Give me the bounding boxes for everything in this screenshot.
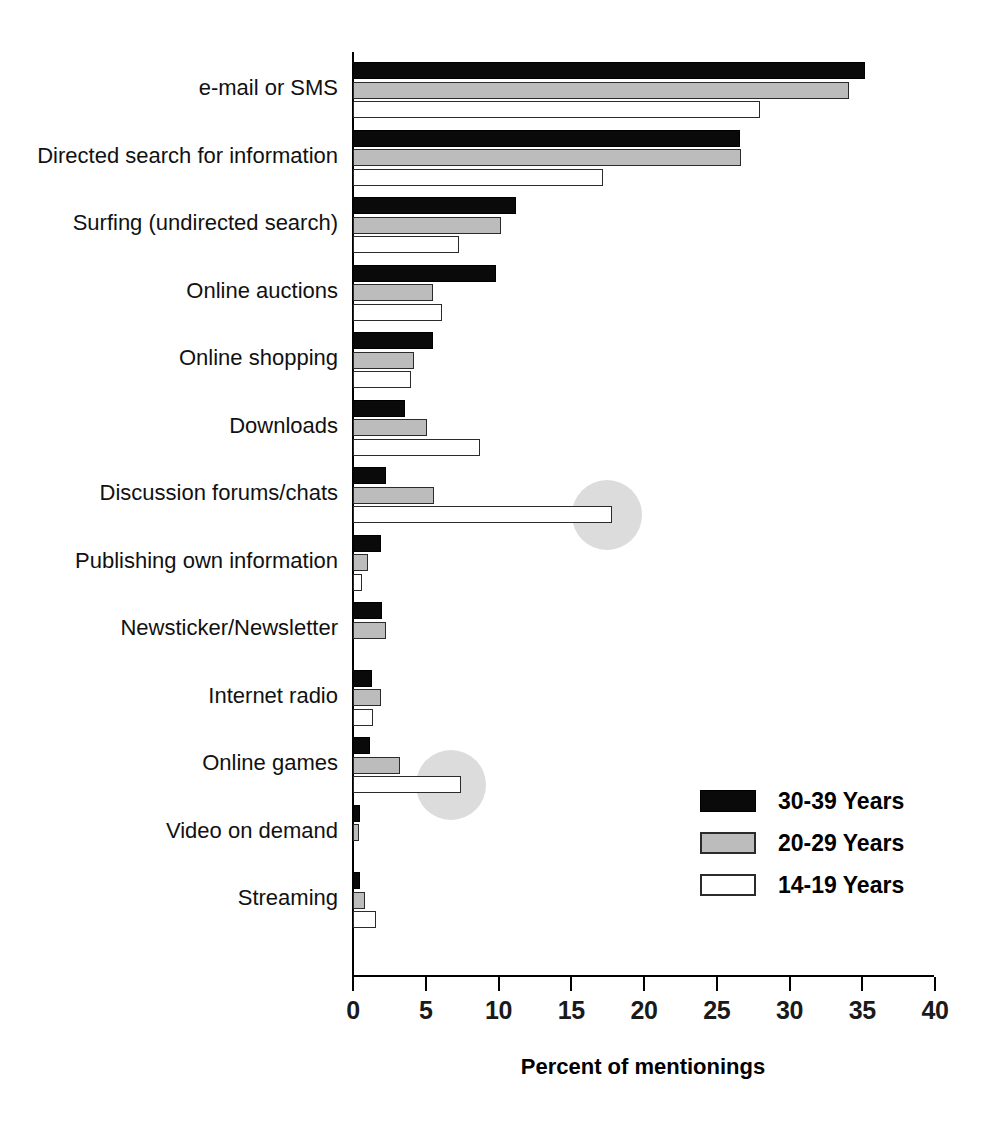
category-label-surfing-undirected-search: Surfing (undirected search)	[0, 210, 338, 236]
bar-surfing-undirected-search-14-19-years	[353, 236, 459, 253]
x-tick-40	[934, 977, 936, 991]
legend-item-20-29: 20-29 Years	[700, 822, 904, 864]
category-label-online-games: Online games	[0, 750, 338, 776]
category-label-online-shopping: Online shopping	[0, 345, 338, 371]
bar-online-shopping-14-19-years	[353, 371, 411, 388]
x-tick-label-20: 20	[622, 996, 666, 1025]
x-tick-label-10: 10	[477, 996, 521, 1025]
x-tick-30	[789, 977, 791, 991]
x-tick-0	[352, 977, 354, 991]
x-tick-25	[716, 977, 718, 991]
x-tick-5	[425, 977, 427, 991]
bar-online-games-30-39-years	[353, 737, 370, 754]
bar-newsticker-newsletter-30-39-years	[353, 602, 382, 619]
bar-discussion-forums-chats-14-19-years	[353, 506, 612, 523]
category-label-internet-radio: Internet radio	[0, 683, 338, 709]
category-label-streaming: Streaming	[0, 885, 338, 911]
x-tick-10	[498, 977, 500, 991]
bar-streaming-20-29-years	[353, 892, 365, 909]
category-label-publishing-own-information: Publishing own information	[0, 548, 338, 574]
x-tick-20	[643, 977, 645, 991]
legend-swatch-black-filled-swatch	[700, 790, 756, 812]
bar-streaming-30-39-years	[353, 872, 360, 889]
x-tick-15	[570, 977, 572, 991]
bar-surfing-undirected-search-20-29-years	[353, 217, 501, 234]
legend-swatch-white-outlined-swatch	[700, 874, 756, 896]
bar-online-auctions-30-39-years	[353, 265, 496, 282]
category-label-newsticker-newsletter: Newsticker/Newsletter	[0, 615, 338, 641]
category-label-directed-search-for-information: Directed search for information	[0, 143, 338, 169]
bar-online-shopping-30-39-years	[353, 332, 433, 349]
category-label-e-mail-or-sms: e-mail or SMS	[0, 75, 338, 101]
category-label-discussion-forums-chats: Discussion forums/chats	[0, 480, 338, 506]
bar-downloads-20-29-years	[353, 419, 427, 436]
chart-legend: 30-39 Years 20-29 Years 14-19 Years	[700, 780, 904, 906]
bar-internet-radio-14-19-years	[353, 709, 373, 726]
legend-item-14-19: 14-19 Years	[700, 864, 904, 906]
bar-downloads-30-39-years	[353, 400, 405, 417]
legend-label-30-39: 30-39 Years	[778, 788, 904, 815]
bar-directed-search-for-information-30-39-years	[353, 130, 740, 147]
x-tick-label-35: 35	[840, 996, 884, 1025]
bar-video-on-demand-20-29-years	[353, 824, 359, 841]
bar-internet-radio-20-29-years	[353, 689, 381, 706]
x-tick-label-5: 5	[404, 996, 448, 1025]
legend-label-20-29: 20-29 Years	[778, 830, 904, 857]
bar-publishing-own-information-20-29-years	[353, 554, 368, 571]
legend-item-30-39: 30-39 Years	[700, 780, 904, 822]
bar-directed-search-for-information-20-29-years	[353, 149, 741, 166]
category-label-video-on-demand: Video on demand	[0, 818, 338, 844]
bar-discussion-forums-chats-30-39-years	[353, 467, 386, 484]
x-tick-label-40: 40	[913, 996, 957, 1025]
x-tick-35	[861, 977, 863, 991]
bar-online-auctions-20-29-years	[353, 284, 433, 301]
bar-online-games-14-19-years	[353, 776, 461, 793]
x-tick-label-0: 0	[331, 996, 375, 1025]
bar-newsticker-newsletter-20-29-years	[353, 622, 386, 639]
bar-video-on-demand-30-39-years	[353, 805, 360, 822]
bar-publishing-own-information-14-19-years	[353, 574, 362, 591]
bar-online-games-20-29-years	[353, 757, 400, 774]
category-label-online-auctions: Online auctions	[0, 278, 338, 304]
bar-streaming-14-19-years	[353, 911, 376, 928]
bar-internet-radio-30-39-years	[353, 670, 372, 687]
x-tick-label-25: 25	[695, 996, 739, 1025]
bar-e-mail-or-sms-20-29-years	[353, 82, 849, 99]
bar-surfing-undirected-search-30-39-years	[353, 197, 516, 214]
bar-publishing-own-information-30-39-years	[353, 535, 381, 552]
legend-label-14-19: 14-19 Years	[778, 872, 904, 899]
x-tick-label-15: 15	[549, 996, 593, 1025]
bar-downloads-14-19-years	[353, 439, 480, 456]
bar-e-mail-or-sms-30-39-years	[353, 62, 865, 79]
bar-online-shopping-20-29-years	[353, 352, 414, 369]
legend-swatch-gray-filled-swatch	[700, 832, 756, 854]
bar-discussion-forums-chats-20-29-years	[353, 487, 434, 504]
category-label-downloads: Downloads	[0, 413, 338, 439]
x-axis-title: Percent of mentionings	[352, 1054, 934, 1080]
bar-e-mail-or-sms-14-19-years	[353, 101, 760, 118]
x-tick-label-30: 30	[768, 996, 812, 1025]
bar-online-auctions-14-19-years	[353, 304, 442, 321]
horizontal-bar-chart: 0510152025303540 e-mail or SMSDirected s…	[0, 0, 991, 1137]
bar-directed-search-for-information-14-19-years	[353, 169, 603, 186]
